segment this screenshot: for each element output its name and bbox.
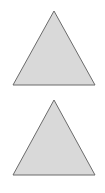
triangle-bottom	[13, 100, 95, 175]
diagram-canvas	[0, 0, 105, 193]
triangle-top	[13, 11, 95, 85]
